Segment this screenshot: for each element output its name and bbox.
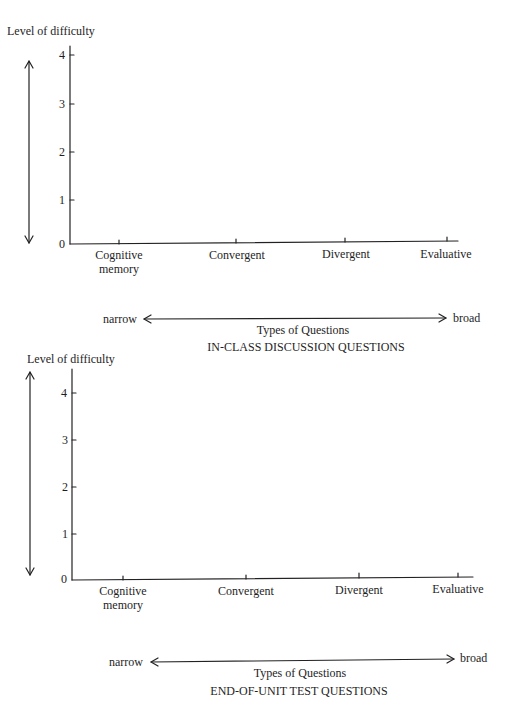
chart-1-title: IN-CLASS DISCUSSION QUESTIONS	[207, 340, 404, 354]
chart-2-y-tick-4: 4	[61, 387, 67, 399]
chart-1-breadth-arrow	[144, 314, 446, 323]
chart-1-category-divergent: Divergent	[322, 247, 370, 261]
chart-2-difficulty-arrow	[26, 372, 34, 575]
chart-2-y-tick-2: 2	[62, 481, 68, 493]
chart-2-breadth-arrow	[151, 655, 454, 666]
chart-1-y-tick-2: 2	[59, 146, 65, 158]
chart-1-y-tick-4: 4	[59, 49, 65, 61]
chart-1-difficulty-arrow	[25, 61, 33, 243]
chart-1-axes	[70, 46, 458, 244]
chart-2-y-tick-1: 1	[62, 528, 68, 540]
chart-2-y-tick-0: 0	[61, 573, 67, 585]
chart-2-y-axis-label: Level of difficulty	[27, 352, 115, 366]
chart-2-title: END-OF-UNIT TEST QUESTIONS	[210, 684, 387, 698]
chart-1-y-tick-3: 3	[59, 98, 65, 110]
chart-1-y-axis-label: Level of difficulty	[7, 24, 95, 38]
chart-1-x-axis	[70, 241, 458, 244]
chart-2-category-cognitive-memory: Cognitive memory	[99, 584, 146, 612]
chart-2-category-evaluative: Evaluative	[432, 582, 483, 596]
chart-1-y-tick-0: 0	[59, 238, 65, 250]
chart-1-x-axis-label: Types of Questions	[257, 323, 349, 337]
chart-2-scale-broad-label: broad	[460, 651, 487, 665]
chart-2-x-axis-label: Types of Questions	[254, 666, 346, 680]
chart-2-x-axis	[72, 577, 473, 580]
chart-2-scale-narrow-label: narrow	[109, 655, 143, 669]
chart-1-category-evaluative: Evaluative	[420, 247, 471, 261]
chart-1-scale-broad-label: broad	[453, 311, 480, 325]
chart-1-scale-narrow-label: narrow	[103, 312, 137, 326]
chart-2-category-divergent: Divergent	[335, 583, 383, 597]
chart-2-axes	[72, 369, 473, 580]
chart-1-category-cognitive-memory: Cognitive memory	[95, 248, 142, 276]
chart-2-category-convergent: Convergent	[218, 584, 274, 598]
chart-1-y-tick-1: 1	[59, 194, 65, 206]
chart-1-category-convergent: Convergent	[209, 248, 265, 262]
chart-2-y-tick-3: 3	[62, 434, 68, 446]
